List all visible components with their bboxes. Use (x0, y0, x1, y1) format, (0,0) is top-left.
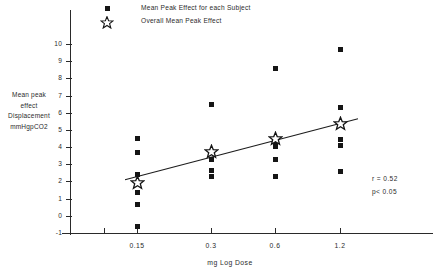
y-tick-label: 0 (40, 212, 62, 219)
x-tick-mark (211, 228, 212, 234)
data-point-overall-mean (204, 144, 219, 159)
data-point-subject-mean (338, 47, 343, 52)
y-axis-title: Mean peak effect Displacement mmHgpCO2 (0, 90, 58, 132)
y-tick-label: 3 (40, 160, 62, 167)
stats-annotation: r = 0.52 p< 0.05 (372, 172, 398, 198)
x-tick-label: 0.15 (117, 242, 157, 249)
y-axis-title-line-1: Mean peak (0, 90, 58, 101)
data-point-overall-mean (130, 175, 145, 190)
y-tick-mark (66, 44, 72, 45)
data-point-subject-mean (273, 174, 278, 179)
data-point-subject-mean (135, 136, 140, 141)
x-tick-label: 0.3 (191, 242, 231, 249)
data-point-subject-mean (273, 66, 278, 71)
x-tick-label: 1.2 (320, 242, 360, 249)
plot-area: 109876543210-1 Mean peak effect Displace… (0, 0, 441, 275)
y-tick-mark (66, 78, 72, 79)
data-point-subject-mean (338, 143, 343, 148)
y-tick-mark (66, 233, 72, 234)
data-point-subject-mean (135, 190, 140, 195)
y-tick-label: 8 (40, 74, 62, 81)
data-point-overall-mean (333, 116, 348, 131)
y-tick-mark (66, 216, 72, 217)
y-tick-label: 10 (40, 40, 62, 47)
y-tick-mark (66, 61, 72, 62)
y-tick-mark (66, 147, 72, 148)
data-point-subject-mean (338, 169, 343, 174)
y-axis-title-line-2: effect (0, 101, 58, 112)
data-point-overall-mean (268, 131, 283, 146)
data-point-subject-mean (273, 157, 278, 162)
x-tick-mark (104, 228, 105, 234)
data-point-subject-mean (135, 202, 140, 207)
y-tick-mark (66, 181, 72, 182)
x-tick-mark (275, 228, 276, 234)
x-tick-label: 0.6 (255, 242, 295, 249)
data-point-subject-mean (209, 168, 214, 173)
data-point-subject-mean (209, 102, 214, 107)
x-axis-line (62, 233, 433, 234)
y-tick-label: -1 (40, 229, 62, 236)
y-tick-label: 4 (40, 143, 62, 150)
data-point-subject-mean (209, 174, 214, 179)
data-point-subject-mean (135, 224, 140, 229)
y-tick-mark (66, 96, 72, 97)
x-tick-mark (340, 228, 341, 234)
y-axis-title-line-3: Displacement (0, 111, 58, 122)
y-tick-mark (66, 199, 72, 200)
scatter-plot-figure: Mean Peak Effect for each Subject Overal… (0, 0, 441, 275)
y-tick-label: 2 (40, 177, 62, 184)
correlation-value: r = 0.52 (372, 172, 398, 185)
significance-value: p< 0.05 (372, 185, 398, 198)
y-tick-mark (66, 130, 72, 131)
data-point-subject-mean (338, 105, 343, 110)
y-tick-label: 1 (40, 195, 62, 202)
data-point-subject-mean (338, 137, 343, 142)
data-point-subject-mean (135, 150, 140, 155)
y-tick-label: 9 (40, 57, 62, 64)
x-axis-title: mg Log Dose (160, 259, 300, 266)
y-tick-mark (66, 113, 72, 114)
y-tick-mark (66, 164, 72, 165)
x-axis-origin-tick (70, 228, 71, 234)
y-axis-title-line-4: mmHgpCO2 (0, 122, 58, 133)
